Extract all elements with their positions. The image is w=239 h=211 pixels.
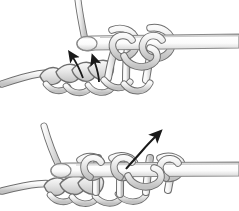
hook-tip bbox=[77, 36, 97, 50]
hook-tip bbox=[51, 163, 71, 177]
step-one-panel bbox=[0, 0, 239, 106]
crochet-hook bbox=[51, 162, 239, 178]
step-two-panel bbox=[0, 106, 239, 211]
crochet-instruction-figure bbox=[0, 0, 239, 211]
